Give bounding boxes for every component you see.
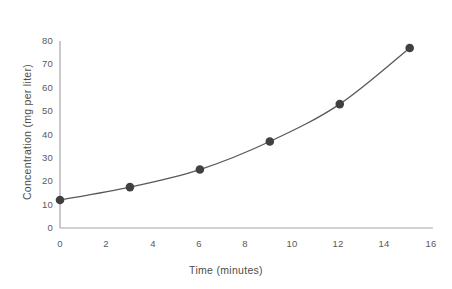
- x-axis-title: Time (minutes): [0, 264, 452, 276]
- x-tick-label: 10: [280, 238, 304, 249]
- y-tick-label: 80: [31, 35, 53, 46]
- data-series-line: [60, 48, 410, 200]
- chart-container: 80 70 60 50 40 30 20 10 0 0 2 4 6 8 10 1…: [0, 0, 452, 289]
- y-tick-label: 0: [31, 222, 53, 233]
- x-tick-label: 6: [187, 238, 211, 249]
- y-tick-label: 30: [31, 152, 53, 163]
- data-point-marker: [56, 196, 65, 205]
- data-point-marker: [196, 165, 205, 174]
- x-tick-label: 8: [233, 238, 257, 249]
- y-tick-label: 50: [31, 105, 53, 116]
- data-point-marker: [126, 183, 135, 192]
- data-point-marker: [335, 100, 344, 109]
- y-tick-label: 40: [31, 129, 53, 140]
- y-tick-label: 60: [31, 82, 53, 93]
- data-point-marker: [266, 137, 275, 146]
- x-tick-label: 2: [94, 238, 118, 249]
- y-axis-title: Concentration (mg per liter): [21, 32, 33, 232]
- y-tick-label: 20: [31, 175, 53, 186]
- x-tick-label: 4: [141, 238, 165, 249]
- y-tick-label: 70: [31, 58, 53, 69]
- x-tick-label: 16: [419, 238, 443, 249]
- data-point-marker: [405, 44, 414, 53]
- x-tick-label: 14: [372, 238, 396, 249]
- y-tick-label: 10: [31, 199, 53, 210]
- x-tick-label: 12: [326, 238, 350, 249]
- x-tick-label: 0: [48, 238, 72, 249]
